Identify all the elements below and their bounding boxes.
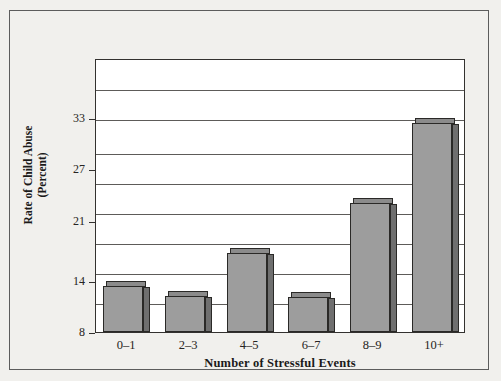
figure-border: 814212733 0–12–34–56–78–910+ Rate of Chi… xyxy=(9,10,489,370)
bar-side-face xyxy=(390,204,397,332)
y-tick-label: 21 xyxy=(51,214,85,229)
bar-front-face xyxy=(227,253,267,332)
y-tick-mark xyxy=(89,333,95,334)
y-tick-mark xyxy=(89,282,95,283)
bar-side-face xyxy=(205,297,212,332)
x-tick-label: 10+ xyxy=(404,338,464,353)
gridline xyxy=(96,120,464,121)
plot-area xyxy=(95,59,465,333)
y-axis-title: Rate of Child Abuse (Percent) xyxy=(21,95,49,255)
y-axis-title-line1: Rate of Child Abuse xyxy=(22,126,34,225)
chart-figure: 814212733 0–12–34–56–78–910+ Rate of Chi… xyxy=(0,0,501,381)
gridline xyxy=(96,274,464,275)
x-tick-label: 6–7 xyxy=(281,338,341,353)
gridline xyxy=(96,154,464,155)
bar-side-face xyxy=(267,254,274,332)
bar-front-face xyxy=(288,297,328,332)
y-tick-label: 14 xyxy=(51,274,85,289)
y-tick-label: 33 xyxy=(51,111,85,126)
bar xyxy=(165,291,212,332)
bar xyxy=(103,281,150,332)
gridline xyxy=(96,244,464,245)
bar xyxy=(350,198,397,332)
y-tick-mark xyxy=(89,170,95,171)
gridline xyxy=(96,214,464,215)
bar-front-face xyxy=(103,286,143,332)
x-tick-label: 0–1 xyxy=(96,338,156,353)
bar xyxy=(227,248,274,332)
bar-front-face xyxy=(412,123,452,332)
y-tick-mark xyxy=(89,222,95,223)
y-tick-label: 8 xyxy=(51,325,85,340)
bar-front-face xyxy=(350,203,390,332)
bar-side-face xyxy=(452,124,459,332)
gridline xyxy=(96,184,464,185)
y-axis-title-line2: (Percent) xyxy=(36,152,48,197)
y-tick-mark xyxy=(89,119,95,120)
bar-side-face xyxy=(143,287,150,332)
x-axis-title: Number of Stressful Events xyxy=(95,356,465,371)
x-tick-label: 2–3 xyxy=(158,338,218,353)
gridline xyxy=(96,90,464,91)
bar xyxy=(288,292,335,332)
x-tick-label: 8–9 xyxy=(342,338,402,353)
bar-side-face xyxy=(328,298,335,332)
x-tick-label: 4–5 xyxy=(219,338,279,353)
bar-front-face xyxy=(165,296,205,332)
y-tick-label: 27 xyxy=(51,162,85,177)
bar xyxy=(412,118,459,332)
gridline xyxy=(96,304,464,305)
